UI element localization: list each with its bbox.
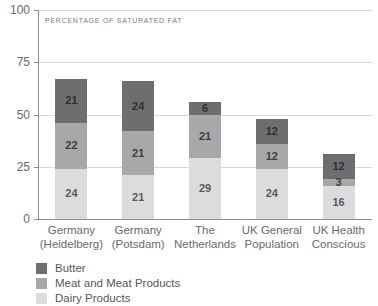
x-axis-category-labels: Germany(Heidelberg)Germany(Potsdam)TheNe… bbox=[38, 224, 372, 260]
legend-item[interactable]: Butter bbox=[36, 261, 180, 275]
bar-segment-butter[interactable]: 24 bbox=[122, 81, 154, 131]
bar-segment-butter[interactable]: 12 bbox=[256, 119, 288, 144]
y-axis-label-50: 50 bbox=[0, 108, 30, 122]
bar-segment-dairy[interactable]: 16 bbox=[323, 186, 355, 219]
bar-segment-butter[interactable]: 21 bbox=[55, 79, 87, 123]
x-axis-category-label: UK HealthConscious bbox=[300, 224, 378, 251]
y-axis-label-0: 0 bbox=[0, 212, 30, 226]
legend-swatch-icon bbox=[36, 293, 47, 304]
bar-value-label: 6 bbox=[202, 103, 208, 114]
bar-group[interactable]: 12316 bbox=[323, 154, 355, 219]
bar-value-label: 22 bbox=[65, 140, 77, 151]
bars-container: 2122242421216212912122412316 bbox=[38, 10, 372, 219]
bar-segment-meat[interactable]: 21 bbox=[122, 131, 154, 175]
bar-segment-dairy[interactable]: 21 bbox=[122, 175, 154, 219]
y-axis-label-75: 75 bbox=[0, 55, 30, 69]
bar-segment-meat[interactable]: 12 bbox=[256, 144, 288, 169]
y-axis-label-100: 100 bbox=[0, 3, 30, 17]
legend-item[interactable]: Dairy Products bbox=[36, 291, 180, 305]
bar-group[interactable]: 121224 bbox=[256, 119, 288, 219]
bar-segment-meat[interactable]: 22 bbox=[55, 123, 87, 169]
bar-group[interactable]: 212224 bbox=[55, 79, 87, 219]
bar-value-label: 21 bbox=[199, 131, 211, 142]
legend-label: Meat and Meat Products bbox=[55, 277, 180, 289]
bar-value-label: 21 bbox=[132, 148, 144, 159]
bar-value-label: 24 bbox=[132, 101, 144, 112]
x-axis-line bbox=[38, 219, 372, 220]
bar-group[interactable]: 242121 bbox=[122, 81, 154, 219]
legend-item[interactable]: Meat and Meat Products bbox=[36, 276, 180, 290]
legend-swatch-icon bbox=[36, 278, 47, 289]
bar-segment-dairy[interactable]: 29 bbox=[189, 158, 221, 219]
bar-value-label: 21 bbox=[132, 192, 144, 203]
legend-label: Dairy Products bbox=[55, 292, 130, 304]
chart-legend: ButterMeat and Meat ProductsDairy Produc… bbox=[36, 261, 180, 306]
category-label-line: UK Health bbox=[300, 224, 378, 238]
bar-value-label: 21 bbox=[65, 95, 77, 106]
bar-segment-meat[interactable]: 21 bbox=[189, 115, 221, 159]
bar-value-label: 12 bbox=[266, 151, 278, 162]
bar-segment-butter[interactable]: 6 bbox=[189, 102, 221, 115]
y-axis-label-25: 25 bbox=[0, 160, 30, 174]
bar-segment-dairy[interactable]: 24 bbox=[55, 169, 87, 219]
saturated-fat-stacked-bar-chart: PERCENTAGE OF SATURATED FAT 0255075100 2… bbox=[0, 0, 378, 306]
bar-group[interactable]: 62129 bbox=[189, 102, 221, 219]
legend-swatch-icon bbox=[36, 263, 47, 274]
bar-value-label: 29 bbox=[199, 183, 211, 194]
bar-value-label: 12 bbox=[266, 126, 278, 137]
legend-label: Butter bbox=[55, 262, 86, 274]
bar-value-label: 16 bbox=[332, 197, 344, 208]
bar-value-label: 24 bbox=[65, 188, 77, 199]
bar-segment-dairy[interactable]: 24 bbox=[256, 169, 288, 219]
bar-value-label: 12 bbox=[332, 161, 344, 172]
category-label-line: Conscious bbox=[300, 238, 378, 252]
bar-value-label: 24 bbox=[266, 188, 278, 199]
